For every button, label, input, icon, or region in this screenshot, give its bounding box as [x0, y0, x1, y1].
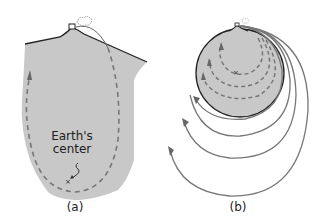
- earths-label-line1: Earth's: [51, 129, 93, 143]
- caption-a: (a): [67, 200, 84, 214]
- diagram-canvas: Earth's center × (a) ×: [0, 0, 323, 216]
- smoke-puff-icon: [242, 18, 249, 23]
- cannon-icon: [235, 23, 239, 26]
- arrow-icon: [168, 146, 174, 156]
- smoke-puff-icon: [77, 17, 92, 26]
- cannon-icon: [69, 24, 75, 29]
- center-mark-icon: ×: [233, 69, 239, 77]
- panel-a: Earth's center × (a): [22, 17, 147, 215]
- center-mark-icon: ×: [65, 178, 71, 186]
- caption-b: (b): [230, 200, 247, 214]
- arrow-icon: [193, 96, 200, 104]
- panel-b: × (b): [168, 18, 308, 214]
- earths-label-line2: center: [53, 142, 92, 156]
